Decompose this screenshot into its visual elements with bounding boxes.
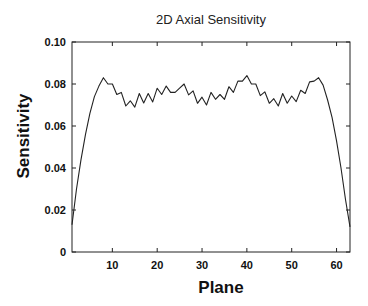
x-axis-ticks: 102030405060	[106, 42, 342, 271]
y-tick-label: 0.04	[45, 162, 67, 174]
x-tick-label: 50	[286, 259, 298, 271]
sensitivity-chart: 2D Axial Sensitivity 00.020.040.060.080.…	[0, 0, 368, 306]
plot-area-frame	[72, 42, 350, 252]
y-tick-label: 0.08	[45, 78, 66, 90]
y-tick-label: 0.02	[45, 204, 66, 216]
y-tick-label: 0.06	[45, 120, 66, 132]
x-tick-label: 40	[241, 259, 253, 271]
x-tick-label: 10	[106, 259, 118, 271]
x-axis-label: Plane	[198, 278, 243, 297]
x-tick-label: 60	[330, 259, 342, 271]
x-tick-label: 30	[196, 259, 208, 271]
y-tick-label: 0.10	[45, 36, 66, 48]
y-axis-ticks: 00.020.040.060.080.10	[45, 36, 350, 258]
x-tick-label: 20	[151, 259, 163, 271]
y-tick-label: 0	[60, 246, 66, 258]
sensitivity-line	[72, 76, 350, 227]
y-axis-label: Sensitivity	[14, 93, 33, 179]
chart-title: 2D Axial Sensitivity	[156, 12, 266, 27]
